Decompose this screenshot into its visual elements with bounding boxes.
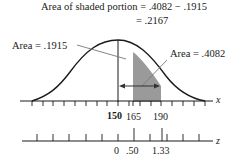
x-tick-150: 150 [107,111,122,121]
x-tick-190: 190 [153,112,168,122]
z-axis-label: z [216,136,220,146]
z-tick-050: .50 [126,146,139,156]
normal-curve-diagram [0,0,247,166]
shaded-region [133,52,161,102]
x-tick-165: 165 [126,112,141,122]
left-leader-line [77,45,126,59]
x-axis-label: x [216,95,220,105]
z-tick-133: 1.33 [152,146,170,156]
z-axis-ticks [37,128,199,141]
z-tick-0: 0 [114,146,119,156]
